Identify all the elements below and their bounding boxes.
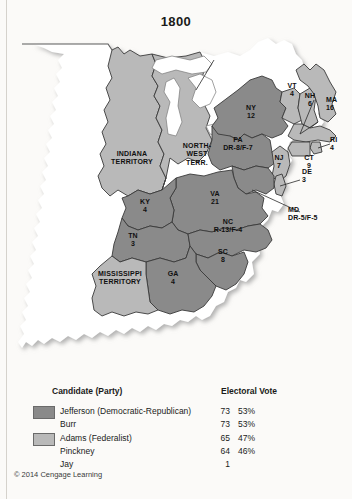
map-label-massachusetts: MA 16	[326, 96, 350, 113]
legend-row-burr-votes: 73	[206, 419, 230, 429]
legend-swatch-democratic-republican	[33, 406, 55, 419]
map-label-vermont: VT 4	[282, 82, 302, 99]
legend-row-jefferson-name: Jefferson (Democratic-Republican)	[60, 406, 191, 416]
legend-swatch-federalist	[33, 433, 55, 446]
map-label-new-jersey: NJ 7	[268, 154, 290, 171]
legend-row-adams-votes: 65	[206, 433, 230, 443]
map-label-rhode-island: RI 4	[330, 136, 350, 153]
map-label-virginia: VA 21	[200, 190, 230, 207]
legend-row-adams-name: Adams (Federalist)	[60, 433, 132, 443]
map-label-georgia: GA 4	[158, 270, 188, 287]
legend-row-adams-pct: 47%	[238, 433, 255, 443]
legend-row-jefferson-votes: 73	[206, 406, 230, 416]
map-container: INDIANA TERRITORY NORTH- WEST TERR. MISS…	[0, 30, 352, 385]
legend-header-candidate: Candidate (Party)	[52, 386, 122, 396]
map-label-maryland: MD DR-5/F-5	[288, 206, 332, 223]
election-map-page: 1800	[0, 0, 352, 499]
legend-header-electoral-vote: Electoral Vote	[221, 386, 277, 396]
legend-row-jefferson-pct: 53%	[238, 406, 255, 416]
map-title: 1800	[0, 14, 352, 29]
legend-row-jay-name: Jay	[60, 459, 73, 469]
map-label-north-carolina: NC R-13/F-4	[202, 218, 254, 235]
legend-row-pinckney-pct: 46%	[238, 446, 255, 456]
map-label-kentucky: KY 4	[130, 198, 160, 215]
map-label-indiana-territory: INDIANA TERRITORY	[96, 150, 168, 167]
legend-row-pinckney-votes: 64	[206, 446, 230, 456]
lake-superior	[152, 56, 212, 74]
copyright-notice: © 2014 Cengage Learning	[14, 470, 102, 479]
legend-row-burr-pct: 53%	[238, 419, 255, 429]
map-label-new-hampshire: NH 6	[300, 92, 320, 109]
legend-row-burr-name: Burr	[60, 419, 76, 429]
map-label-connecticut: CT 9	[298, 154, 320, 171]
map-label-mississippi-territory: MISSISSIPPI TERRITORY	[84, 270, 156, 287]
legend-row-pinckney-name: Pinckney	[60, 446, 95, 456]
legend-row-jay-votes: 1	[206, 459, 230, 469]
map-label-new-york: NY 12	[238, 104, 264, 121]
map-label-pennsylvania: PA DR-8/F-7	[212, 136, 264, 153]
map-label-south-carolina: SC 8	[208, 248, 238, 265]
map-legend: Candidate (Party) Electoral Vote Jeffers…	[0, 386, 352, 476]
map-label-tennessee: TN 3	[118, 232, 148, 249]
state-rhode-island	[310, 142, 322, 154]
